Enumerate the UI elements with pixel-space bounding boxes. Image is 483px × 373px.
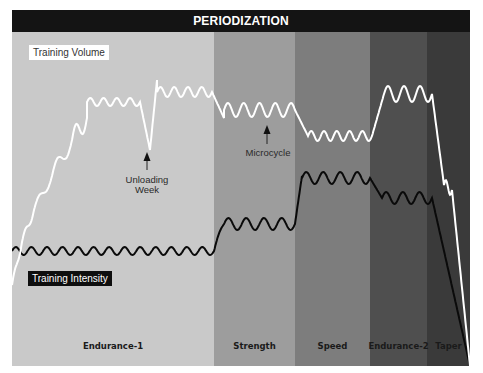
phase-band-endurance-1: [12, 32, 214, 366]
phase-band-taper: [427, 32, 470, 366]
page-title: PERIODIZATION: [12, 10, 470, 32]
training-volume-legend: Training Volume: [29, 45, 109, 60]
phase-label-endurance-2: Endurance-2: [368, 341, 428, 351]
phase-label-endurance-1: Endurance-1: [83, 341, 143, 351]
phase-band-strength: [214, 32, 295, 366]
chart-canvas: Unloading Week Microcycle Endurance-1Str…: [12, 10, 470, 366]
phase-label-taper: Taper: [435, 341, 462, 351]
microcycle-label: Microcycle: [246, 147, 291, 158]
phase-labels: Endurance-1StrengthSpeedEndurance-2Taper: [83, 341, 463, 351]
phase-label-speed: Speed: [318, 341, 348, 351]
unloading-week-label-line2: Week: [135, 184, 159, 195]
periodization-diagram: Unloading Week Microcycle Endurance-1Str…: [12, 10, 470, 366]
phase-band-speed: [295, 32, 370, 366]
phase-bands: [12, 32, 470, 366]
training-intensity-legend: Training Intensity: [28, 271, 112, 286]
phase-label-strength: Strength: [233, 341, 275, 351]
